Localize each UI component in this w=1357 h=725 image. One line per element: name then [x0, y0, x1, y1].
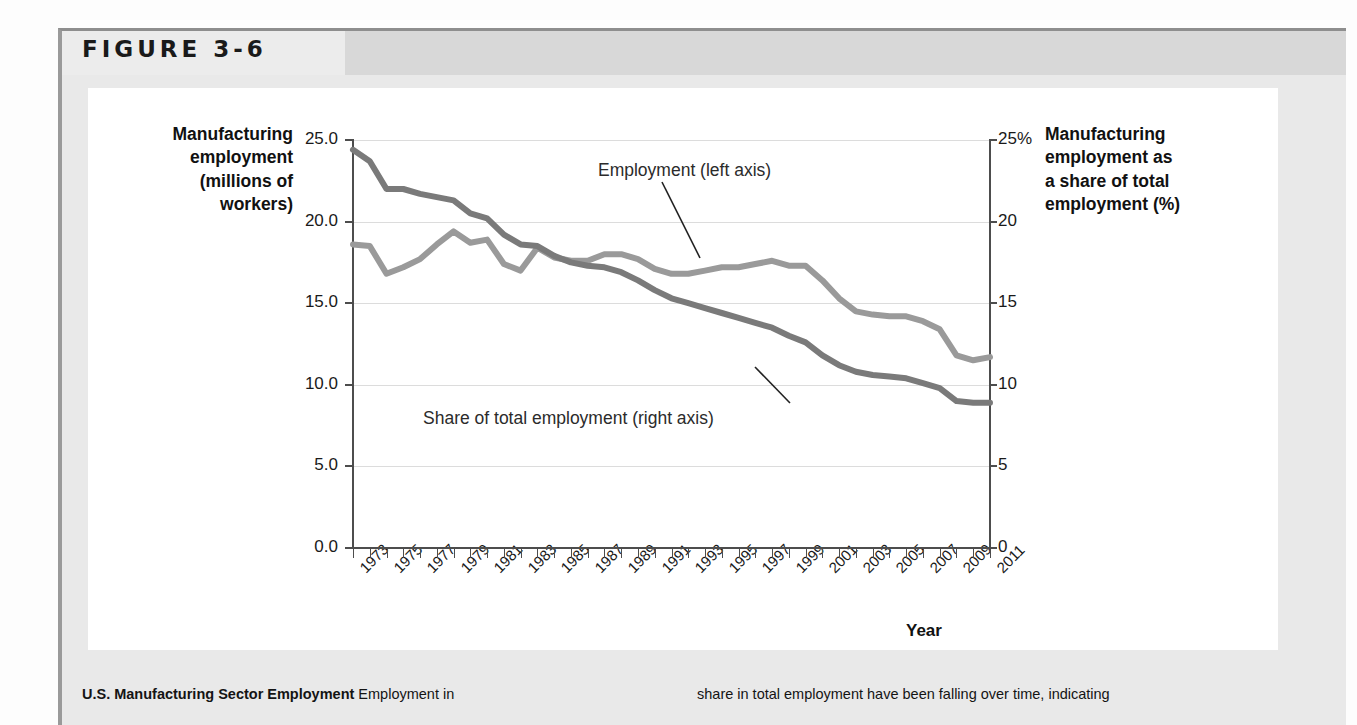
caption-left-column: U.S. Manufacturing Sector Employment Emp… — [82, 686, 682, 702]
caption-title: U.S. Manufacturing Sector Employment — [82, 686, 354, 702]
caption-left-text: Employment in — [358, 686, 454, 702]
caption-right-column: share in total employment have been fall… — [697, 686, 1337, 702]
figure-page: FIGURE 3-6 Manufacturing employment (mil… — [0, 0, 1357, 725]
leader-line-employment — [662, 182, 700, 258]
leader-line-share — [755, 367, 790, 403]
caption-right-text: share in total employment have been fall… — [697, 686, 1110, 702]
chart-lines — [0, 0, 1357, 725]
